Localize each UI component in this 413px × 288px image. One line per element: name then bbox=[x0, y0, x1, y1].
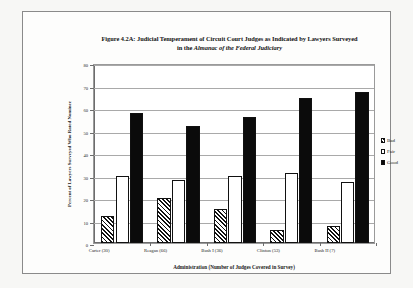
x-axis-tick-label: Carter (30) bbox=[89, 248, 110, 253]
y-axis-title: Percent of Lawyers Surveyed Who Rated No… bbox=[67, 101, 72, 207]
bar-bad bbox=[270, 230, 283, 244]
x-axis-tick-label: Bush I (36) bbox=[201, 248, 222, 253]
x-axis-tick bbox=[207, 243, 208, 246]
bar-fair bbox=[172, 180, 185, 243]
bar-bad bbox=[101, 216, 114, 243]
y-axis-tick-label: 60 bbox=[83, 108, 88, 113]
bar-group bbox=[150, 65, 206, 243]
legend-swatch-bad-icon bbox=[381, 138, 385, 142]
y-axis-tick-label: 40 bbox=[83, 153, 88, 158]
figure-title-line1: Figure 4.2A: Judicial Temperament of Cir… bbox=[101, 35, 357, 42]
legend-swatch-good-icon bbox=[381, 160, 385, 164]
y-axis-tick-label: 10 bbox=[83, 220, 88, 225]
x-axis-tick bbox=[150, 243, 151, 246]
x-axis-tick-label: Clinton (53) bbox=[257, 248, 280, 253]
y-axis-tick-label: 30 bbox=[83, 175, 88, 180]
bar-bad bbox=[214, 209, 227, 243]
bar-good bbox=[130, 113, 143, 244]
y-axis-tick-label: 70 bbox=[83, 85, 88, 90]
legend-label: Good bbox=[387, 160, 398, 165]
bar-fair bbox=[341, 182, 354, 243]
legend: BadFairGood bbox=[381, 135, 398, 168]
x-axis-tick bbox=[263, 243, 264, 246]
bar-group bbox=[94, 65, 150, 243]
figure-page: Figure 4.2A: Judicial Temperament of Cir… bbox=[0, 0, 413, 288]
bar-fair bbox=[116, 176, 129, 244]
y-axis-tick-label: 20 bbox=[83, 198, 88, 203]
x-axis-tick-label: Reagan (66) bbox=[144, 248, 167, 253]
legend-label: Bad bbox=[387, 138, 395, 143]
x-axis-tick-label: Bush II (7) bbox=[315, 248, 336, 253]
plot-area: 01020304050607080 bbox=[93, 64, 375, 244]
bar-group bbox=[320, 65, 376, 243]
figure-frame: Figure 4.2A: Judicial Temperament of Cir… bbox=[22, 11, 391, 274]
bar-groups bbox=[94, 65, 374, 243]
y-axis-tick-label: 0 bbox=[86, 243, 88, 248]
x-axis-title: Administration (Number of Judges Covered… bbox=[93, 264, 375, 270]
bar-group bbox=[207, 65, 263, 243]
bar-bad bbox=[157, 198, 170, 243]
y-axis-tick-label: 50 bbox=[83, 130, 88, 135]
bar-good bbox=[355, 92, 368, 243]
bar-fair bbox=[285, 173, 298, 243]
y-axis-tick-label: 80 bbox=[83, 63, 88, 68]
legend-item-bad: Bad bbox=[381, 135, 398, 146]
x-axis-tick bbox=[376, 243, 377, 246]
figure-title: Figure 4.2A: Judicial Temperament of Cir… bbox=[53, 35, 406, 52]
y-axis-tick bbox=[90, 245, 94, 246]
legend-label: Fair bbox=[387, 149, 395, 154]
legend-item-good: Good bbox=[381, 157, 398, 168]
figure-title-line2-prefix: in the bbox=[177, 44, 194, 51]
x-axis-tick bbox=[320, 243, 321, 246]
bar-good bbox=[186, 126, 199, 243]
bar-group bbox=[263, 65, 319, 243]
figure-title-source-italic: Almanac of the Federal Judiciary bbox=[194, 44, 282, 51]
legend-swatch-fair-icon bbox=[381, 149, 385, 153]
bar-fair bbox=[228, 176, 241, 244]
bar-good bbox=[299, 98, 312, 243]
legend-item-fair: Fair bbox=[381, 146, 398, 157]
bar-good bbox=[243, 117, 256, 243]
bar-bad bbox=[327, 226, 340, 243]
